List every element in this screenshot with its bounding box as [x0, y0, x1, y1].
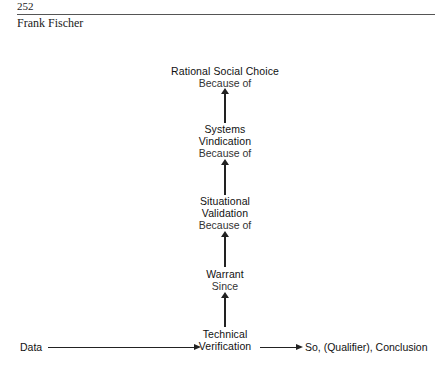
node-title-line-2: Validation [125, 207, 325, 219]
node-rational-social-choice: Rational Social Choice Because of [125, 65, 325, 89]
arrow-right-icon [260, 347, 297, 348]
data-label: Data [20, 341, 42, 353]
node-connector: Because of [125, 147, 325, 159]
arrow-up-icon [224, 93, 226, 123]
node-situational-validation: Situational Validation Because of [125, 195, 325, 231]
node-title-line-1: Technical [125, 328, 325, 340]
node-technical-verification: Technical Verification [125, 328, 325, 352]
arrow-up-icon [224, 297, 226, 327]
node-warrant: Warrant Since [125, 268, 325, 292]
arrow-up-icon [224, 236, 226, 267]
arrow-up-icon [224, 164, 226, 195]
conclusion-label: So, (Qualifier), Conclusion [305, 341, 428, 353]
node-title-line-1: Situational [125, 195, 325, 207]
node-title: Warrant [125, 268, 325, 280]
node-systems-vindication: Systems Vindication Because of [125, 123, 325, 159]
node-connector: Because of [125, 219, 325, 231]
header-rule [17, 14, 435, 15]
page-number: 252 [17, 0, 34, 12]
arrow-right-icon [48, 347, 195, 348]
running-head-author: Frank Fischer [17, 17, 83, 30]
node-connector: Since [125, 280, 325, 292]
node-title-line-1: Systems [125, 123, 325, 135]
node-title-line-2: Verification [125, 340, 325, 352]
node-title: Rational Social Choice [125, 65, 325, 77]
node-title-line-2: Vindication [125, 135, 325, 147]
